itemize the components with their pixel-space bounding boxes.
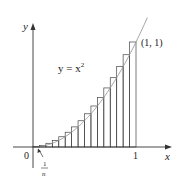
parabola-curve [33,18,147,147]
riemann-rectangle [104,88,110,147]
x-axis-label: x [164,150,170,162]
origin-label: 0 [24,150,29,161]
y-axis-label: y [22,20,28,32]
curve-label: y = x2 [58,61,85,74]
riemann-sum-diagram: y x 0 1 (1, 1) y = x2 1 n [0,0,182,184]
width-denominator: n [42,170,46,178]
rectangles [33,42,136,147]
x-axis-arrow-icon [165,145,172,150]
riemann-rectangle [78,121,84,147]
riemann-rectangle [117,67,123,147]
riemann-rectangle [52,140,58,147]
point-label: (1, 1) [141,37,163,49]
y-axis-arrow-icon [31,23,36,30]
riemann-rectangle [110,78,116,147]
x-tick-label: 1 [133,150,138,161]
width-numerator: 1 [43,160,47,168]
riemann-rectangle [123,55,129,147]
riemann-rectangle [85,114,91,147]
riemann-rectangle [130,42,136,147]
diagram-svg: y x 0 1 (1, 1) y = x2 1 n [0,0,182,184]
